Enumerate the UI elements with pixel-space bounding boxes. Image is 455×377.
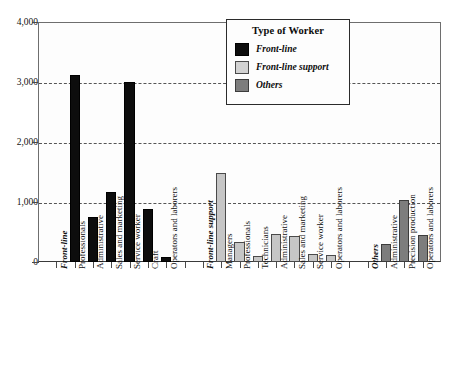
x-tick-mark bbox=[386, 262, 387, 268]
x-category-label: Administrative bbox=[390, 215, 399, 269]
legend-label-front-line: Front-line bbox=[256, 44, 297, 54]
x-tick-mark bbox=[368, 262, 369, 268]
legend-label-front-line-support: Front-line support bbox=[256, 62, 329, 72]
x-tick-mark bbox=[221, 262, 222, 268]
x-category-label: Professionals bbox=[243, 221, 252, 269]
legend-item-others: Others bbox=[235, 76, 341, 94]
x-category-label: Administrative bbox=[280, 215, 289, 269]
x-category-label: Operators and laborers bbox=[335, 187, 344, 269]
x-category-label: Service worker bbox=[133, 214, 142, 269]
x-axis-labels: Front-lineProfessionalsAdministrativeSal… bbox=[38, 269, 441, 377]
x-tick-mark bbox=[75, 262, 76, 268]
legend-item-front-line: Front-line bbox=[235, 40, 341, 58]
x-tick-mark bbox=[294, 262, 295, 268]
y-axis: 01,0002,0003,0004,000 bbox=[0, 22, 38, 262]
x-group-label: Front-line bbox=[60, 230, 69, 269]
x-tick-mark bbox=[258, 262, 259, 268]
x-tick-mark bbox=[404, 262, 405, 268]
x-category-label: Operators and laborers bbox=[426, 187, 435, 269]
x-tick-mark bbox=[56, 262, 57, 268]
x-category-label: Administrative bbox=[96, 215, 105, 269]
legend-swatch-front-line-support bbox=[235, 61, 249, 74]
x-tick-mark bbox=[185, 262, 186, 268]
x-tick-mark bbox=[166, 262, 167, 268]
legend-item-front-line-support: Front-line support bbox=[235, 58, 341, 76]
x-tick-mark bbox=[148, 262, 149, 268]
legend-swatch-front-line bbox=[235, 43, 249, 56]
x-category-label: Craft bbox=[151, 251, 160, 270]
x-tick-mark bbox=[130, 262, 131, 268]
x-group-label: Front-line support bbox=[206, 200, 215, 269]
x-tick-mark bbox=[203, 262, 204, 268]
x-category-label: Operators and laborers bbox=[170, 187, 179, 269]
x-category-label: Service worker bbox=[316, 214, 325, 269]
x-tick-mark bbox=[240, 262, 241, 268]
x-tick-mark bbox=[93, 262, 94, 268]
x-tick-mark bbox=[423, 262, 424, 268]
x-group-label: Others bbox=[371, 244, 380, 269]
x-tick-mark bbox=[111, 262, 112, 268]
x-category-label: Sales and marketing bbox=[298, 196, 307, 269]
x-tick-mark bbox=[276, 262, 277, 268]
x-category-label: Managers bbox=[225, 234, 234, 270]
legend-label-others: Others bbox=[256, 80, 282, 90]
x-tick-mark bbox=[349, 262, 350, 268]
x-tick-mark bbox=[331, 262, 332, 268]
x-category-label: Professionals bbox=[78, 221, 87, 269]
x-tick-mark bbox=[313, 262, 314, 268]
bar-chart: 01,0002,0003,0004,000 Front-lineProfessi… bbox=[0, 0, 455, 377]
x-category-label: Sales and marketing bbox=[115, 196, 124, 269]
x-category-label: Precision production bbox=[408, 194, 417, 269]
legend: Type of Worker Front-line Front-line sup… bbox=[226, 19, 350, 105]
x-category-label: Technicians bbox=[261, 226, 270, 269]
legend-swatch-others bbox=[235, 79, 249, 92]
legend-title: Type of Worker bbox=[235, 25, 341, 36]
